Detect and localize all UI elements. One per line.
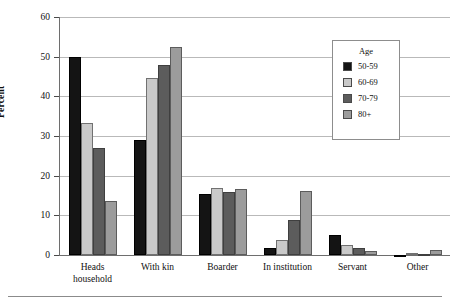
y-axis-tick-label: 60	[0, 12, 50, 22]
legend-swatch-80-plus	[343, 110, 352, 119]
x-axis-label-other: Other	[385, 262, 450, 274]
bar-servant-70-79	[353, 248, 365, 255]
bar-boarder-60-69	[211, 188, 223, 255]
bar-boarder-50-59	[199, 194, 211, 255]
bar-boarder-80-	[235, 189, 247, 255]
legend-box: Age 50-5960-6970-7980+	[332, 40, 400, 140]
legend-title: Age	[333, 46, 399, 56]
gridline	[60, 176, 450, 177]
legend-item-80-: 80+	[343, 108, 399, 121]
x-axis-label-in-institution: In institution	[255, 262, 320, 274]
bar-heads-household-60-69	[81, 123, 93, 255]
legend-swatch-60-69	[343, 78, 352, 87]
bar-heads-household-70-79	[93, 148, 105, 255]
bar-in-institution-70-79	[288, 220, 300, 255]
bar-in-institution-60-69	[276, 240, 288, 255]
legend-label: 60-69	[358, 78, 378, 87]
y-axis-tick-label: 10	[0, 210, 50, 220]
x-axis-label-boarder: Boarder	[190, 262, 255, 274]
figure-footer-rule	[8, 296, 442, 297]
bar-other-70-79	[418, 254, 430, 256]
y-axis-tick-label: 20	[0, 171, 50, 181]
bar-servant-60-69	[341, 245, 353, 255]
bar-servant-50-59	[329, 235, 341, 255]
y-axis-tick-label: 40	[0, 91, 50, 101]
legend-label: 80+	[358, 110, 371, 119]
bar-heads-household-50-59	[69, 57, 81, 255]
legend-swatch-70-79	[343, 94, 352, 103]
legend-label: 70-79	[358, 94, 378, 103]
bar-with-kin-50-59	[134, 140, 146, 255]
gridline	[60, 215, 450, 216]
bar-in-institution-80-	[300, 191, 312, 255]
bar-with-kin-80-	[170, 47, 182, 255]
bar-chart-figure: Percent 0102030405060 Heads householdWit…	[0, 0, 450, 308]
bar-other-80-	[430, 250, 442, 255]
x-axis-label-heads-household: Heads household	[60, 262, 125, 285]
legend-entries: 50-5960-6970-7980+	[333, 60, 399, 121]
y-axis-line	[59, 17, 60, 256]
bar-other-50-59	[394, 255, 406, 257]
bar-servant-80-	[365, 251, 377, 255]
bar-with-kin-60-69	[146, 78, 158, 255]
x-axis-line	[59, 255, 450, 256]
gridline	[60, 17, 450, 18]
legend-swatch-50-59	[343, 62, 352, 71]
x-axis-label-servant: Servant	[320, 262, 385, 274]
y-axis-tick-label: 50	[0, 52, 50, 62]
y-axis-tick-label: 30	[0, 131, 50, 141]
legend-label: 50-59	[358, 62, 378, 71]
bar-boarder-70-79	[223, 192, 235, 255]
legend-item-50-59: 50-59	[343, 60, 399, 73]
legend-item-60-69: 60-69	[343, 76, 399, 89]
bar-with-kin-70-79	[158, 65, 170, 255]
legend-item-70-79: 70-79	[343, 92, 399, 105]
y-axis-tick-label: 0	[0, 250, 50, 260]
bar-heads-household-80-	[105, 201, 117, 255]
bar-in-institution-50-59	[264, 248, 276, 255]
bar-other-60-69	[406, 253, 418, 255]
x-axis-label-with-kin: With kin	[125, 262, 190, 274]
